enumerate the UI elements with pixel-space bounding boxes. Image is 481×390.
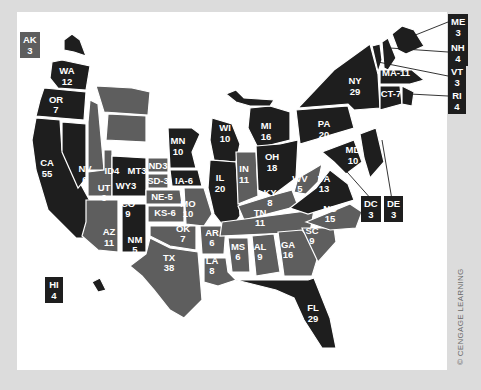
votes-pa: 20 — [319, 129, 330, 140]
label-mn: MN — [171, 135, 186, 146]
callout-me-abbr: ME — [451, 16, 465, 27]
svg-text:55: 55 — [42, 168, 53, 179]
svg-text:IN: IN — [239, 163, 249, 174]
svg-text:WY3: WY3 — [116, 180, 137, 191]
state-wy — [106, 114, 146, 142]
votes-ok: 7 — [180, 233, 185, 244]
svg-text:SD-3: SD-3 — [147, 175, 169, 186]
svg-text:9: 9 — [309, 235, 314, 246]
svg-text:10: 10 — [220, 133, 231, 144]
svg-text:18: 18 — [267, 162, 278, 173]
callout-me: ME 3 — [448, 14, 468, 40]
callout-nh-abbr: NH — [451, 42, 465, 53]
callout-ak: AK 3 — [20, 32, 40, 58]
callout-nh: NH 4 — [448, 40, 468, 66]
callout-ak-abbr: AK — [23, 34, 37, 45]
label-ne: NE-5 — [151, 191, 173, 202]
votes-az: 11 — [104, 237, 115, 248]
svg-text:KS-6: KS-6 — [154, 207, 176, 218]
svg-text:14: 14 — [384, 139, 395, 150]
svg-text:MN: MN — [171, 135, 186, 146]
us-electoral-map: WA 12 OR 7 CA 55 NV 6 ID4 MT3 WY3 UT 6 C… — [0, 0, 481, 390]
svg-text:6: 6 — [101, 192, 106, 203]
votes-al: 9 — [257, 251, 262, 262]
state-mi-upper — [226, 90, 274, 106]
svg-text:11: 11 — [255, 217, 266, 228]
state-fl — [236, 278, 336, 348]
svg-text:IA-6: IA-6 — [175, 175, 193, 186]
svg-text:9: 9 — [125, 208, 130, 219]
svg-text:15: 15 — [325, 213, 336, 224]
callout-vt-abbr: VT — [451, 66, 463, 77]
label-nv: NV — [78, 163, 92, 174]
votes-nv: 6 — [82, 174, 87, 185]
callout-de-votes: 3 — [387, 209, 400, 220]
votes-wi: 10 — [220, 133, 231, 144]
votes-sc: 9 — [309, 235, 314, 246]
callout-de-abbr: DE — [387, 198, 400, 209]
label-in: IN — [239, 163, 249, 174]
svg-text:OH: OH — [265, 151, 279, 162]
votes-mn: 10 — [173, 146, 184, 157]
label-ia: IA-6 — [175, 175, 193, 186]
callout-ri-votes: 4 — [451, 101, 463, 112]
votes-nm: 5 — [132, 244, 138, 255]
label-il: IL — [216, 172, 225, 183]
label-nd: ND3 — [148, 160, 167, 171]
label-md: MD — [346, 144, 361, 155]
svg-text:10: 10 — [183, 208, 194, 219]
votes-oh: 18 — [267, 162, 278, 173]
svg-text:29: 29 — [308, 313, 319, 324]
votes-nj: 14 — [384, 139, 395, 150]
svg-text:NJ: NJ — [383, 128, 395, 139]
label-id: ID4 — [105, 165, 121, 176]
callout-vt-votes: 3 — [451, 77, 463, 88]
svg-text:MA-11: MA-11 — [382, 67, 411, 78]
votes-ms: 6 — [235, 251, 240, 262]
votes-wa: 12 — [62, 76, 73, 87]
votes-fl: 29 — [308, 313, 319, 324]
svg-text:13: 13 — [319, 183, 330, 194]
callout-ri-abbr: RI — [451, 90, 463, 101]
svg-text:7: 7 — [53, 104, 58, 115]
svg-text:8: 8 — [209, 265, 214, 276]
votes-mi: 16 — [261, 131, 272, 142]
callout-ri: RI 4 — [448, 88, 466, 114]
svg-text:AZ: AZ — [103, 226, 116, 237]
votes-md: 10 — [348, 155, 359, 166]
svg-text:6: 6 — [209, 237, 214, 248]
label-fl: FL — [307, 302, 319, 313]
callout-me-votes: 3 — [451, 27, 465, 38]
state-nj — [360, 128, 384, 178]
svg-text:11: 11 — [104, 237, 115, 248]
label-mt: MT3 — [128, 165, 147, 176]
svg-text:6: 6 — [235, 251, 240, 262]
svg-text:9: 9 — [257, 251, 262, 262]
svg-text:WI: WI — [219, 122, 231, 133]
svg-text:10: 10 — [173, 146, 184, 157]
callout-ak-votes: 3 — [23, 45, 37, 56]
state-id — [88, 100, 104, 170]
label-pa: PA — [318, 118, 331, 129]
state-hi-shape — [92, 278, 106, 292]
callout-hi-votes: 4 — [48, 290, 60, 301]
svg-text:ID4: ID4 — [105, 165, 121, 176]
label-ca: CA — [40, 157, 54, 168]
label-ny: NY — [348, 75, 362, 86]
svg-text:20: 20 — [319, 129, 330, 140]
svg-text:20: 20 — [215, 183, 226, 194]
callout-hi: HI 4 — [45, 277, 63, 303]
svg-text:NV: NV — [78, 163, 92, 174]
label-ma: MA-11 — [382, 67, 411, 78]
callout-de: DE 3 — [384, 196, 403, 222]
label-az: AZ — [103, 226, 116, 237]
votes-in: 11 — [239, 174, 250, 185]
label-wy: WY3 — [116, 180, 137, 191]
votes-ca: 55 — [42, 168, 53, 179]
svg-text:5: 5 — [297, 183, 303, 194]
votes-la: 8 — [209, 265, 214, 276]
state-ri — [402, 86, 414, 106]
svg-text:8: 8 — [267, 197, 272, 208]
label-ct: CT-7 — [381, 88, 402, 99]
svg-text:5: 5 — [132, 244, 138, 255]
